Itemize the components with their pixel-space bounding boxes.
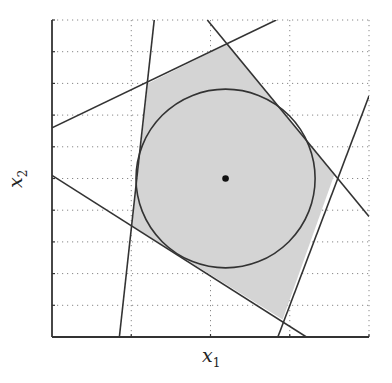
y-axis-label: x2	[4, 170, 30, 188]
feasible-region	[132, 44, 334, 320]
x-axis-label: x1	[202, 344, 220, 370]
chebyshev-center-point	[222, 175, 229, 182]
chebyshev-center-plot	[0, 0, 392, 383]
